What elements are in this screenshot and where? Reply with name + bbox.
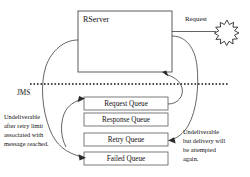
retry-queue-label: Retry Queue (108, 136, 145, 144)
left-note-line-3: associated with (4, 131, 44, 138)
right-note-line-2: but delivery will (183, 137, 225, 144)
left-note-line-4: message reached. (4, 140, 49, 147)
response-queue-label: Response Queue (102, 116, 150, 124)
request-queue-label: Request Queue (104, 100, 148, 108)
retry-to-request-queue-connector (62, 100, 82, 147)
diagram-canvas: RServer Request JMS Request Queue Respon… (0, 0, 250, 177)
right-note-line-1: Undeliverable (183, 128, 219, 135)
jms-label: JMS (17, 89, 30, 97)
rserver-to-retry-queue-connector (172, 36, 198, 140)
left-note-line-1: Undeliverable (4, 113, 40, 120)
right-note-line-4: again. (183, 155, 199, 162)
failed-queue-label: Failed Queue (107, 155, 146, 163)
burst-icon (214, 20, 239, 46)
right-note-line-3: be attempted (183, 146, 217, 153)
jms-rserver-diagram: RServer Request JMS Request Queue Respon… (0, 0, 250, 177)
request-label: Request (185, 15, 207, 22)
rserver-label: RServer (83, 15, 110, 24)
left-note-line-2: after retry limit (4, 122, 43, 129)
